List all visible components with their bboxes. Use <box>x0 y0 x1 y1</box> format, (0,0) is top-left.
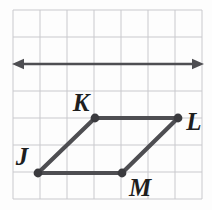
vertex-label-m: M <box>128 174 152 201</box>
figure-background <box>0 0 212 210</box>
vertex-dot-m <box>118 169 127 178</box>
geometry-figure: JKLM <box>0 0 212 210</box>
vertex-dot-k <box>91 114 100 123</box>
vertex-label-k: K <box>72 89 92 116</box>
vertex-dot-l <box>174 114 183 123</box>
vertex-label-j: J <box>15 143 30 170</box>
vertex-label-l: L <box>185 108 201 135</box>
figure-canvas: JKLM <box>0 0 212 210</box>
vertex-dot-j <box>34 169 43 178</box>
